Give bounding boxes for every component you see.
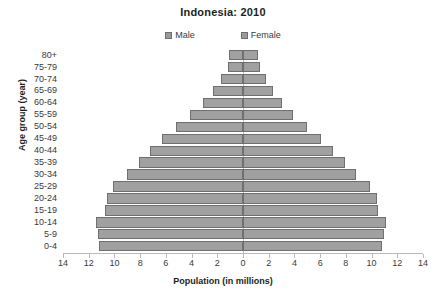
bar-female-20-24 bbox=[243, 193, 377, 203]
bar-female-75-79 bbox=[243, 62, 260, 72]
x-tick-label: 8 bbox=[138, 258, 143, 268]
bar-female-25-29 bbox=[243, 181, 370, 191]
age-group-label: 75-79 bbox=[34, 63, 57, 72]
age-group-label: 30-34 bbox=[34, 170, 57, 179]
legend-item-male: Male bbox=[165, 30, 195, 40]
bar-male-60-64 bbox=[203, 98, 243, 108]
x-tick-label: 0 bbox=[240, 258, 245, 268]
bar-female-50-54 bbox=[243, 122, 307, 132]
age-group-label: 50-54 bbox=[34, 122, 57, 131]
legend-swatch-male-icon bbox=[165, 32, 172, 39]
age-group-label: 35-39 bbox=[34, 158, 57, 167]
bar-female-40-44 bbox=[243, 146, 333, 156]
pyramid-row: 10-14 bbox=[63, 217, 423, 227]
bar-male-55-59 bbox=[190, 110, 243, 120]
bar-female-80+ bbox=[243, 50, 258, 60]
age-group-label: 65-69 bbox=[34, 86, 57, 95]
bar-male-40-44 bbox=[150, 146, 243, 156]
pyramid-row: 55-59 bbox=[63, 110, 423, 120]
age-group-label: 5-9 bbox=[44, 230, 57, 239]
pyramid-row: 5-9 bbox=[63, 229, 423, 239]
pyramid-row: 65-69 bbox=[63, 86, 423, 96]
legend-label-male: Male bbox=[175, 30, 195, 40]
bar-female-30-34 bbox=[243, 169, 356, 179]
age-group-label: 0-4 bbox=[44, 242, 57, 251]
pyramid-row: 60-64 bbox=[63, 98, 423, 108]
bar-female-10-14 bbox=[243, 217, 386, 227]
pyramid-row: 0-4 bbox=[63, 241, 423, 251]
bar-female-35-39 bbox=[243, 157, 345, 167]
pyramid-row: 40-44 bbox=[63, 146, 423, 156]
x-tick-label: 14 bbox=[58, 258, 68, 268]
bar-female-70-74 bbox=[243, 74, 266, 84]
bar-female-15-19 bbox=[243, 205, 378, 215]
x-tick-label: 6 bbox=[318, 258, 323, 268]
age-group-label: 15-19 bbox=[34, 206, 57, 215]
x-axis-title: Population (in millions) bbox=[0, 276, 446, 286]
bar-female-45-49 bbox=[243, 134, 321, 144]
bar-male-5-9 bbox=[98, 229, 243, 239]
bar-female-0-4 bbox=[243, 241, 382, 251]
age-group-label: 20-24 bbox=[34, 194, 57, 203]
bar-male-50-54 bbox=[176, 122, 243, 132]
x-tick-label: 8 bbox=[343, 258, 348, 268]
legend-swatch-female-icon bbox=[241, 32, 248, 39]
bar-female-55-59 bbox=[243, 110, 293, 120]
bar-male-0-4 bbox=[99, 241, 243, 251]
bar-male-45-49 bbox=[162, 134, 243, 144]
age-group-label: 40-44 bbox=[34, 146, 57, 155]
pyramid-row: 20-24 bbox=[63, 193, 423, 203]
plot-area: 80+75-7970-7465-6960-6455-5950-5445-4940… bbox=[63, 50, 423, 254]
age-group-label: 70-74 bbox=[34, 75, 57, 84]
bar-female-65-69 bbox=[243, 86, 273, 96]
x-tick-label: 10 bbox=[367, 258, 377, 268]
bar-male-70-74 bbox=[221, 74, 243, 84]
x-tick-label: 6 bbox=[163, 258, 168, 268]
bar-male-65-69 bbox=[213, 86, 243, 96]
legend-label-female: Female bbox=[251, 30, 281, 40]
age-group-label: 55-59 bbox=[34, 110, 57, 119]
pyramid-row: 80+ bbox=[63, 50, 423, 60]
bar-male-30-34 bbox=[127, 169, 243, 179]
x-tick-label: 12 bbox=[392, 258, 402, 268]
age-group-label: 60-64 bbox=[34, 98, 57, 107]
legend-item-female: Female bbox=[241, 30, 281, 40]
x-tick-label: 4 bbox=[292, 258, 297, 268]
x-tick-label: 12 bbox=[84, 258, 94, 268]
age-group-label: 45-49 bbox=[34, 134, 57, 143]
x-tick-label: 2 bbox=[215, 258, 220, 268]
chart-legend: Male Female bbox=[0, 30, 446, 40]
age-group-label: 25-29 bbox=[34, 182, 57, 191]
pyramid-row: 75-79 bbox=[63, 62, 423, 72]
bar-male-80+ bbox=[229, 50, 243, 60]
x-tick-label: 4 bbox=[189, 258, 194, 268]
pyramid-row: 45-49 bbox=[63, 134, 423, 144]
bar-male-75-79 bbox=[228, 62, 243, 72]
pyramid-row: 25-29 bbox=[63, 181, 423, 191]
pyramid-row: 15-19 bbox=[63, 205, 423, 215]
age-group-label: 10-14 bbox=[34, 218, 57, 227]
age-group-label: 80+ bbox=[42, 51, 57, 60]
pyramid-row: 70-74 bbox=[63, 74, 423, 84]
bar-female-60-64 bbox=[243, 98, 282, 108]
bar-male-20-24 bbox=[107, 193, 243, 203]
y-axis-title: Age group (year) bbox=[17, 55, 27, 175]
bar-male-25-29 bbox=[113, 181, 243, 191]
pyramid-row: 50-54 bbox=[63, 122, 423, 132]
bar-male-35-39 bbox=[139, 157, 243, 167]
x-tick-label: 14 bbox=[418, 258, 428, 268]
x-tick-label: 2 bbox=[266, 258, 271, 268]
x-tick-label: 10 bbox=[109, 258, 119, 268]
pyramid-row: 30-34 bbox=[63, 169, 423, 179]
chart-title: Indonesia: 2010 bbox=[0, 6, 446, 18]
bar-female-5-9 bbox=[243, 229, 384, 239]
pyramid-row: 35-39 bbox=[63, 157, 423, 167]
population-pyramid-chart: Indonesia: 2010 Male Female Age group (y… bbox=[0, 0, 446, 302]
bar-male-15-19 bbox=[105, 205, 243, 215]
bar-male-10-14 bbox=[96, 217, 243, 227]
